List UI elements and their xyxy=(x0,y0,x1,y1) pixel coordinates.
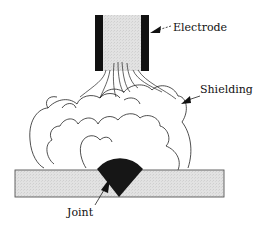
electrode-label: Electrode xyxy=(173,21,227,34)
shielding-label: Shielding xyxy=(200,83,253,96)
shielding-gas-cloud xyxy=(30,85,191,170)
electrode-callout: Electrode xyxy=(150,21,227,34)
electrode-right-wall xyxy=(141,15,149,71)
joint-label: Joint xyxy=(66,206,94,219)
arrow-icon xyxy=(150,26,161,33)
electrode-left-wall xyxy=(95,15,103,71)
shielding-callout: Shielding xyxy=(181,83,253,104)
welding-diagram: Electrode Shielding Joint xyxy=(0,0,271,229)
